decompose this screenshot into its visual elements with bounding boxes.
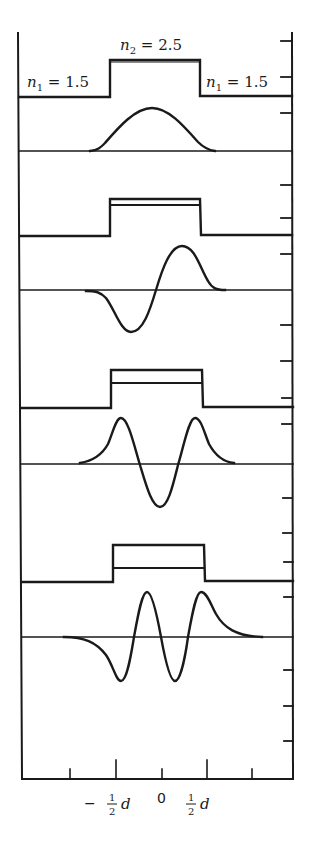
panel-2-mode-curve: [86, 246, 225, 332]
svg-text:1: 1: [188, 792, 194, 803]
core-index-label: n2 = 2.5: [120, 36, 182, 56]
panel-3-mode-curve: [80, 418, 234, 507]
panel-3-index-profile: [21, 370, 293, 408]
x-tick-label-zero: 0: [157, 790, 166, 806]
x-tick-label-half-d: 1 2 d: [186, 792, 210, 817]
left-frame: [18, 33, 22, 779]
left-cladding-index-label: n1 = 1.5: [27, 73, 89, 93]
right-cladding-index-label: n1 = 1.5: [206, 73, 268, 93]
panel-1-mode-curve: [90, 108, 215, 151]
svg-text:d: d: [121, 795, 131, 813]
x-tick-label-minus-half-d: − 1 2 d: [84, 792, 131, 817]
svg-text:−: −: [84, 795, 96, 811]
bottom-ticks: [70, 760, 252, 779]
svg-text:2: 2: [188, 806, 194, 817]
svg-text:1: 1: [109, 792, 115, 803]
panel-2-index-profile: [20, 199, 292, 236]
svg-text:d: d: [200, 795, 210, 813]
waveguide-mode-diagram: n2 = 2.5 n1 = 1.5 n1 = 1.5 − 1 2 d 0 1 2…: [0, 0, 315, 848]
panel-4-index-profile: [22, 545, 293, 582]
svg-text:2: 2: [109, 806, 115, 817]
